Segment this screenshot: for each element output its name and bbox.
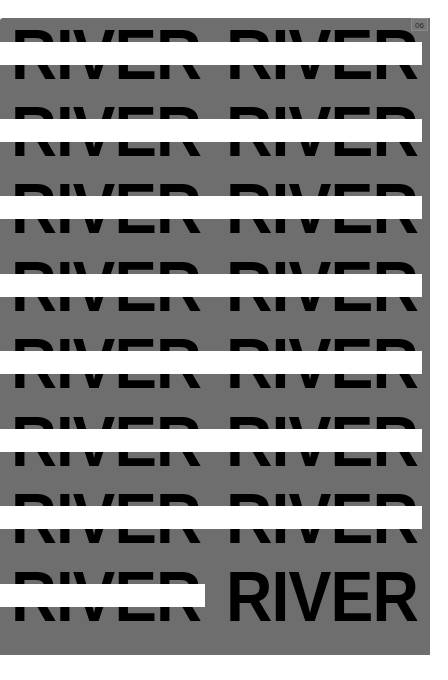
word-right: RIVER <box>226 571 418 623</box>
text-row-7: RIVER RIVER <box>0 493 430 545</box>
redaction-bar <box>0 196 422 219</box>
redaction-bar <box>0 429 422 452</box>
redaction-bar <box>0 506 422 529</box>
text-row-5: RIVER RIVER <box>0 338 430 390</box>
redaction-bar <box>0 351 422 374</box>
text-row-1: RIVER RIVER <box>0 29 430 81</box>
text-row-4: RIVER RIVER <box>0 261 430 313</box>
redaction-bar <box>0 119 422 142</box>
text-row-6: RIVER RIVER <box>0 416 430 468</box>
page-number-badge: 06 <box>411 18 428 31</box>
redaction-bar <box>0 42 422 65</box>
text-row-2: RIVER RIVER <box>0 106 430 158</box>
text-row-8: RIVER RIVER <box>0 571 430 623</box>
redaction-bar <box>0 274 422 297</box>
text-row-3: RIVER RIVER <box>0 183 430 235</box>
poster-panel: 06 RIVER RIVER RIVER RIVER RIVER RIVER R… <box>0 18 430 655</box>
redaction-bar <box>0 584 205 607</box>
